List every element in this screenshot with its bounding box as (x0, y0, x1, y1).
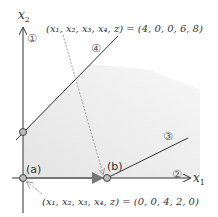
top-annotation: (x₁, x₂, x₃, x₄, z) = (4, 0, 0, 6, 8) (46, 23, 203, 34)
constraint-label-1: ① (27, 32, 37, 45)
bottom-annotation: (x₁, x₂, x₃, x₄, z) = (0, 0, 4, 2, 0) (42, 196, 199, 207)
constraint-label-4: ④ (91, 42, 101, 55)
x1-axis-label: x1 (193, 171, 205, 187)
bottom-annotation-pointer (27, 182, 42, 194)
x2-axis-label: x2 (18, 8, 30, 24)
constraint-label-3: ③ (163, 130, 173, 143)
simplex-diagram: x2 x1 ① ② ③ ④ (a) (b) (x₁, x₂, x₃, x₄, z… (0, 0, 218, 217)
vertex-b (104, 175, 111, 182)
point-a-label: (a) (26, 163, 41, 176)
vertex-y-intercept (20, 129, 27, 136)
constraint-label-2: ② (172, 168, 182, 181)
point-b-label: (b) (107, 160, 123, 173)
